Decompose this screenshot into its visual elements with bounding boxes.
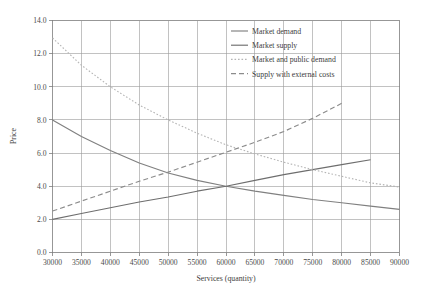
x-tick-label: 45000 xyxy=(130,258,149,267)
y-axis-title: Price xyxy=(9,127,18,144)
x-tick-label: 85000 xyxy=(361,258,380,267)
x-tick-label: 50000 xyxy=(159,258,178,267)
x-tick-label: 60000 xyxy=(217,258,236,267)
x-tick-label: 75000 xyxy=(303,258,322,267)
x-tick-label: 80000 xyxy=(332,258,351,267)
grid-lines xyxy=(53,21,400,253)
x-axis-title: Services (quantity) xyxy=(196,274,256,283)
legend-label: Market demand xyxy=(252,27,301,36)
y-tick-label: 2.0 xyxy=(37,215,47,224)
y-tick-label: 4.0 xyxy=(37,182,47,191)
economics-supply-demand-chart: 3000035000400004500050000550006000065000… xyxy=(0,0,422,299)
x-tick-label: 30000 xyxy=(43,258,62,267)
series-line-market-supply xyxy=(53,160,371,220)
y-tick-label: 6.0 xyxy=(37,149,47,158)
y-tick-label: 8.0 xyxy=(37,116,47,125)
chart-canvas: 3000035000400004500050000550006000065000… xyxy=(0,0,422,299)
y-tick-label: 14.0 xyxy=(33,16,46,25)
x-tick-label: 90000 xyxy=(390,258,409,267)
y-tick-label: 10.0 xyxy=(33,83,46,92)
legend-label: Market and public demand xyxy=(252,55,336,64)
x-tick-label: 55000 xyxy=(188,258,207,267)
legend-label: Market supply xyxy=(252,41,297,50)
x-tick-label: 40000 xyxy=(101,258,120,267)
x-axis-tick-labels: 3000035000400004500050000550006000065000… xyxy=(43,258,409,267)
x-tick-label: 65000 xyxy=(245,258,264,267)
tick-marks xyxy=(49,21,400,257)
y-tick-label: 12.0 xyxy=(33,49,46,58)
y-axis-tick-labels: 0.02.04.06.08.010.012.014.0 xyxy=(33,16,46,257)
x-tick-label: 35000 xyxy=(72,258,91,267)
legend-label: Supply with external costs xyxy=(252,70,335,79)
x-tick-label: 70000 xyxy=(274,258,293,267)
legend: Market demandMarket supplyMarket and pub… xyxy=(231,27,336,79)
y-tick-label: 0.0 xyxy=(37,248,47,257)
